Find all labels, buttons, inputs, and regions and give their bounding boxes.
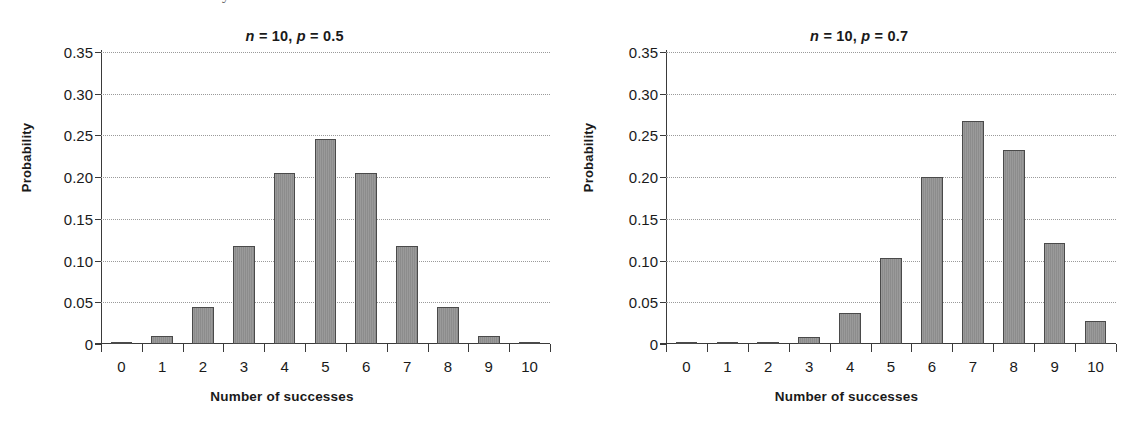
- title-variable-p: p: [861, 28, 870, 44]
- x-tick-label: 3: [789, 358, 830, 375]
- bar-6: [355, 173, 377, 344]
- x-tick-label: 2: [748, 358, 789, 375]
- x-tick-labels-left: 012345678910: [101, 358, 550, 375]
- y-tick-label: 0: [650, 336, 658, 353]
- x-tick-mark: [871, 344, 872, 352]
- plot-area-left: 0.350.300.250.200.150.100.050 0123456789…: [101, 52, 550, 344]
- x-tick-mark: [666, 344, 667, 352]
- x-axis-title-right: Number of successes: [564, 389, 1129, 404]
- x-tick-mark: [550, 344, 551, 352]
- bar-5: [315, 139, 337, 344]
- bar-slot: [666, 52, 707, 344]
- bar-slot: [101, 52, 142, 344]
- x-tick-mark: [952, 344, 953, 352]
- bar-7: [962, 121, 984, 344]
- y-tick-label: 0.15: [64, 210, 93, 227]
- bar-slot: [468, 52, 509, 344]
- bar-slot: [509, 52, 550, 344]
- binomial-distribution-figure: n = 10, p = 0.5 Probability 0.350.300.25…: [0, 0, 1129, 431]
- x-ticks-right: [666, 344, 1116, 352]
- title-variable-n: n: [246, 28, 255, 44]
- bar-slot: [1034, 52, 1075, 344]
- bar-slot: [346, 52, 387, 344]
- x-tick-mark: [993, 344, 994, 352]
- x-tick-label: 5: [871, 358, 912, 375]
- title-variable-n: n: [810, 28, 819, 44]
- x-tick-label: 3: [223, 358, 264, 375]
- x-tick-label: 0: [101, 358, 142, 375]
- x-tick-label: 7: [387, 358, 428, 375]
- x-tick-mark: [1116, 344, 1117, 352]
- title-variable-p: p: [297, 28, 306, 44]
- bar-6: [921, 177, 943, 344]
- y-tick-label: 0.15: [629, 210, 658, 227]
- bar-5: [880, 258, 902, 344]
- chart-panel-left: n = 10, p = 0.5 Probability 0.350.300.25…: [0, 0, 564, 431]
- x-tick-mark: [183, 344, 184, 352]
- bar-slot: [223, 52, 264, 344]
- x-tick-label: 1: [707, 358, 748, 375]
- x-tick-label: 7: [952, 358, 993, 375]
- y-tick-label: 0.20: [64, 169, 93, 186]
- title-suffix: = 0.7: [870, 28, 908, 44]
- y-tick-label: 0.05: [64, 294, 93, 311]
- y-tick-label: 0.30: [629, 85, 658, 102]
- y-axis-title-left: Probability: [19, 123, 34, 192]
- x-tick-mark: [264, 344, 265, 352]
- bar-slot: [789, 52, 830, 344]
- bar-slot: [871, 52, 912, 344]
- bar-7: [396, 246, 418, 344]
- y-tick-label: 0.35: [64, 44, 93, 61]
- x-tick-label: 6: [346, 358, 387, 375]
- x-tick-mark: [509, 344, 510, 352]
- bar-3: [798, 337, 820, 345]
- x-tick-label: 8: [993, 358, 1034, 375]
- y-tick-label: 0.30: [64, 85, 93, 102]
- bar-series-right: [666, 52, 1116, 344]
- x-axis-title-left: Number of successes: [0, 389, 564, 404]
- y-tick-label: 0.05: [629, 294, 658, 311]
- chart-panel-right: n = 10, p = 0.7 Probability 0.350.300.25…: [564, 0, 1129, 431]
- title-suffix: = 0.5: [306, 28, 344, 44]
- x-tick-mark: [428, 344, 429, 352]
- bar-3: [233, 246, 255, 344]
- bar-slot: [264, 52, 305, 344]
- bar-slot: [142, 52, 183, 344]
- x-tick-mark: [911, 344, 912, 352]
- bar-slot: [428, 52, 469, 344]
- bar-slot: [952, 52, 993, 344]
- x-tick-label: 10: [509, 358, 550, 375]
- x-tick-mark: [101, 344, 102, 352]
- bar-4: [274, 173, 296, 344]
- y-axis-title-right: Probability: [581, 123, 596, 192]
- x-tick-label: 0: [666, 358, 707, 375]
- x-tick-mark: [1075, 344, 1076, 352]
- bar-slot: [830, 52, 871, 344]
- x-tick-mark: [707, 344, 708, 352]
- bar-slot: [993, 52, 1034, 344]
- y-tick-label: 0.20: [629, 169, 658, 186]
- x-tick-labels-right: 012345678910: [666, 358, 1116, 375]
- y-tick-label: 0.10: [629, 252, 658, 269]
- x-tick-label: 1: [142, 358, 183, 375]
- bar-4: [839, 313, 861, 344]
- y-tick-label: 0.10: [64, 252, 93, 269]
- bar-9: [1044, 243, 1066, 344]
- x-tick-mark: [748, 344, 749, 352]
- x-tick-mark: [387, 344, 388, 352]
- bar-1: [151, 336, 173, 344]
- bar-9: [478, 336, 500, 344]
- x-tick-mark: [1034, 344, 1035, 352]
- bar-slot: [387, 52, 428, 344]
- x-tick-label: 10: [1075, 358, 1116, 375]
- bar-2: [192, 307, 214, 344]
- bar-8: [437, 307, 459, 344]
- x-tick-label: 8: [428, 358, 469, 375]
- bar-slot: [707, 52, 748, 344]
- title-middle: = 10,: [819, 28, 861, 44]
- x-tick-label: 6: [911, 358, 952, 375]
- x-tick-label: 9: [1034, 358, 1075, 375]
- x-tick-mark: [789, 344, 790, 352]
- bar-slot: [748, 52, 789, 344]
- x-tick-label: 4: [264, 358, 305, 375]
